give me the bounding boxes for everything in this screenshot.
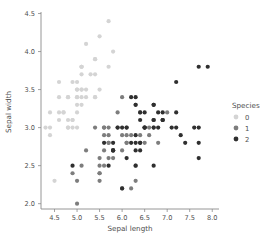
- data-point: [84, 42, 88, 46]
- data-point: [106, 126, 110, 130]
- data-point: [93, 72, 97, 76]
- x-tick-label: 7.5: [184, 214, 195, 222]
- data-point: [111, 148, 115, 152]
- series-0: [43, 19, 115, 183]
- data-point: [48, 110, 52, 114]
- data-point: [120, 186, 124, 190]
- data-point: [97, 164, 101, 168]
- data-point: [97, 156, 101, 160]
- data-point: [70, 126, 74, 130]
- legend: Species 012: [232, 101, 260, 144]
- data-point: [75, 126, 79, 130]
- data-point: [102, 141, 106, 145]
- data-point: [43, 126, 47, 130]
- data-point: [116, 126, 120, 130]
- data-point: [57, 95, 61, 99]
- data-point: [129, 95, 133, 99]
- data-point: [125, 133, 129, 137]
- data-point: [143, 141, 147, 145]
- legend-marker-0[interactable]: [234, 115, 239, 120]
- data-point: [129, 133, 133, 137]
- x-axis-title: Sepal length: [107, 224, 152, 233]
- data-point: [156, 110, 160, 114]
- data-point: [197, 156, 201, 160]
- data-point: [174, 110, 178, 114]
- data-point: [161, 110, 165, 114]
- y-tick-label: 4.0: [25, 48, 36, 56]
- data-point: [152, 164, 156, 168]
- data-point: [75, 103, 79, 107]
- data-point: [120, 133, 124, 137]
- data-point: [138, 141, 142, 145]
- data-point: [165, 110, 169, 114]
- data-point: [97, 34, 101, 38]
- data-point: [61, 110, 65, 114]
- data-point: [79, 103, 83, 107]
- data-point: [152, 118, 156, 122]
- data-point: [70, 118, 74, 122]
- data-point: [97, 87, 101, 91]
- data-point: [161, 118, 165, 122]
- data-point: [197, 126, 201, 130]
- data-point: [84, 95, 88, 99]
- data-point: [93, 95, 97, 99]
- legend-label-1[interactable]: 1: [245, 125, 249, 133]
- data-point: [70, 171, 74, 175]
- data-point: [156, 141, 160, 145]
- data-point: [84, 87, 88, 91]
- y-tick-label: 3.0: [25, 124, 36, 132]
- data-point: [138, 133, 142, 137]
- data-point: [174, 80, 178, 84]
- data-point: [120, 148, 124, 152]
- data-point: [125, 156, 129, 160]
- data-point: [102, 164, 106, 168]
- legend-label-2[interactable]: 2: [245, 136, 249, 144]
- data-point: [79, 95, 83, 99]
- data-point: [75, 179, 79, 183]
- y-tick-label: 4.5: [25, 10, 36, 18]
- data-point: [57, 80, 61, 84]
- data-point: [79, 164, 83, 168]
- data-point: [106, 141, 110, 145]
- data-point: [179, 133, 183, 137]
- data-point: [52, 179, 56, 183]
- data-point: [57, 118, 61, 122]
- data-point: [79, 65, 83, 69]
- data-point: [134, 103, 138, 107]
- data-point: [152, 126, 156, 130]
- data-point: [48, 126, 52, 130]
- plot-canvas: 4.55.05.56.06.57.07.58.0 2.02.53.03.54.0…: [0, 0, 275, 246]
- data-point: [116, 110, 120, 114]
- data-point: [88, 72, 92, 76]
- legend-marker-2[interactable]: [234, 137, 239, 142]
- data-point: [192, 126, 196, 130]
- data-point: [93, 57, 97, 61]
- data-point: [75, 110, 79, 114]
- data-point: [183, 141, 187, 145]
- x-tick-label: 7.0: [162, 214, 173, 222]
- data-point: [134, 148, 138, 152]
- data-point: [70, 164, 74, 168]
- legend-label-0[interactable]: 0: [245, 114, 249, 122]
- data-point: [48, 133, 52, 137]
- data-point: [106, 19, 110, 23]
- data-point: [66, 126, 70, 130]
- data-point: [106, 164, 110, 168]
- data-point: [106, 65, 110, 69]
- data-point: [134, 95, 138, 99]
- data-point: [102, 126, 106, 130]
- data-point: [125, 141, 129, 145]
- data-point: [143, 126, 147, 130]
- data-point: [152, 103, 156, 107]
- data-point: [57, 110, 61, 114]
- data-point: [93, 126, 97, 130]
- data-point: [120, 95, 124, 99]
- data-point: [134, 141, 138, 145]
- x-tick-label: 6.0: [117, 214, 128, 222]
- legend-marker-1[interactable]: [234, 126, 239, 131]
- data-point: [75, 95, 79, 99]
- data-point: [79, 72, 83, 76]
- y-axis-title: Sepal width: [4, 91, 13, 133]
- data-point: [102, 148, 106, 152]
- y-tick-label: 3.5: [25, 86, 36, 94]
